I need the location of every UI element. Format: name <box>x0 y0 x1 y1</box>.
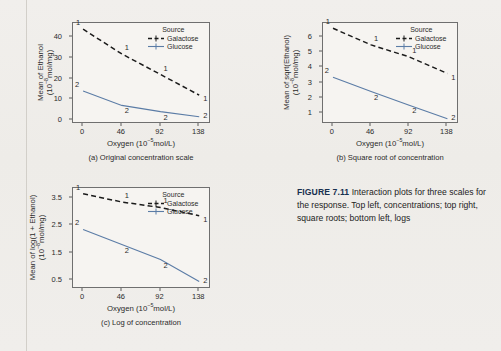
legend-marker-icon <box>396 35 412 42</box>
y-tick-mark <box>69 251 72 252</box>
panel-subcaption-b: (b) Square root of concentration <box>282 153 498 162</box>
data-point-label: 2 <box>75 220 79 228</box>
legend-item-galactose[interactable]: Galactose <box>148 35 199 42</box>
legend-label: Glucose <box>167 43 193 50</box>
x-tick-label: 138 <box>440 127 453 136</box>
series-line-glucose <box>333 77 447 118</box>
y-tick-mark <box>319 96 322 97</box>
y-tick-mark <box>69 196 72 197</box>
x-tick-mark <box>370 123 371 126</box>
x-tick-label: 46 <box>117 127 125 136</box>
x-tick-mark <box>198 288 199 291</box>
legend-title: Source <box>148 26 199 33</box>
y-tick-mark <box>69 224 72 225</box>
y-tick-mark <box>319 111 322 112</box>
series-line-glucose <box>83 229 199 281</box>
figure-caption-label: FIGURE 7.11 <box>297 187 352 197</box>
x-tick-mark <box>120 123 121 126</box>
figure-7-11: 1111222204692138010203040Oxygen (10−5mol… <box>0 0 501 351</box>
legend-marker-icon <box>148 208 164 215</box>
x-tick-mark <box>331 123 332 126</box>
data-point-label: 1 <box>451 74 455 82</box>
data-point-label: 2 <box>412 107 416 115</box>
legend-title: Source <box>148 191 199 198</box>
chart-panel-c: 11112222046921380.51.52.53.5Oxygen (10−5… <box>0 0 138 101</box>
x-tick-label: 92 <box>404 127 412 136</box>
x-tick-label: 92 <box>155 292 163 301</box>
x-tick-mark <box>159 288 160 291</box>
data-point-label: 1 <box>326 19 330 27</box>
y-tick-mark <box>69 118 72 119</box>
legend-item-galactose[interactable]: Galactose <box>396 35 447 42</box>
data-point-label: 1 <box>203 216 207 224</box>
x-tick-mark <box>198 123 199 126</box>
x-tick-mark <box>446 123 447 126</box>
y-tick-mark <box>319 51 322 52</box>
figure-caption: FIGURE 7.11 Interaction plots for three … <box>297 186 493 225</box>
legend-item-glucose[interactable]: Glucose <box>148 43 199 50</box>
x-tick-label: 0 <box>80 292 84 301</box>
data-point-label: 2 <box>125 247 129 255</box>
y-tick-mark <box>319 66 322 67</box>
legend-item-glucose[interactable]: Glucose <box>396 43 447 50</box>
x-tick-label: 0 <box>330 127 334 136</box>
y-tick-mark <box>319 81 322 82</box>
legend-marker-icon <box>148 35 164 42</box>
legend-marker-icon <box>396 43 412 50</box>
x-tick-mark <box>120 288 121 291</box>
legend-label: Galactose <box>415 35 447 42</box>
data-point-label: 1 <box>203 95 207 103</box>
legend-label: Glucose <box>415 43 441 50</box>
legend-item-galactose[interactable]: Galactose <box>148 200 199 207</box>
panel-subcaption-a: (a) Original concentration scale <box>32 153 250 162</box>
x-axis-title: Oxygen (10−5mol/L) <box>72 304 210 313</box>
y-axis-title: Mean of sqrt(Ethanol)(10−8mol/mg) <box>282 22 300 123</box>
data-point-label: 2 <box>125 108 129 116</box>
x-tick-label: 92 <box>155 127 163 136</box>
legend-label: Glucose <box>167 208 193 215</box>
x-tick-label: 0 <box>80 127 84 136</box>
data-point-label: 2 <box>325 68 329 76</box>
x-tick-mark <box>82 123 83 126</box>
legend-label: Galactose <box>167 200 199 207</box>
data-point-label: 2 <box>163 114 167 122</box>
legend-marker-icon <box>148 200 164 207</box>
panel-subcaption-c: (c) Log of concentration <box>32 318 250 327</box>
x-axis-title: Oxygen (10−5mol/L) <box>322 139 458 148</box>
data-point-label: 2 <box>203 277 207 285</box>
x-tick-mark <box>408 123 409 126</box>
x-axis-title: Oxygen (10−5mol/L) <box>72 139 210 148</box>
y-tick-mark <box>319 36 322 37</box>
data-point-label: 1 <box>125 192 129 200</box>
legend-marker-icon <box>148 43 164 50</box>
x-tick-label: 138 <box>192 127 205 136</box>
data-point-label: 2 <box>203 112 207 120</box>
y-tick-mark <box>69 279 72 280</box>
legend-label: Galactose <box>167 35 199 42</box>
y-axis-title: Mean of log(1 + Ethanol)(10−8mol/mg) <box>28 187 46 288</box>
x-tick-label: 46 <box>366 127 374 136</box>
x-tick-label: 46 <box>117 292 125 301</box>
x-tick-mark <box>159 123 160 126</box>
data-point-label: 1 <box>76 184 80 192</box>
legend-item-glucose[interactable]: Glucose <box>148 208 199 215</box>
x-tick-mark <box>82 288 83 291</box>
legend-title: Source <box>396 26 447 33</box>
legend-c: SourceGalactoseGlucose <box>148 191 199 215</box>
x-tick-label: 138 <box>192 292 205 301</box>
data-point-label: 1 <box>163 65 167 73</box>
legend-b: SourceGalactoseGlucose <box>396 26 447 50</box>
legend-a: SourceGalactoseGlucose <box>148 26 199 50</box>
data-point-label: 2 <box>163 262 167 270</box>
data-point-label: 1 <box>374 35 378 43</box>
data-point-label: 2 <box>451 114 455 122</box>
data-point-label: 2 <box>374 94 378 102</box>
